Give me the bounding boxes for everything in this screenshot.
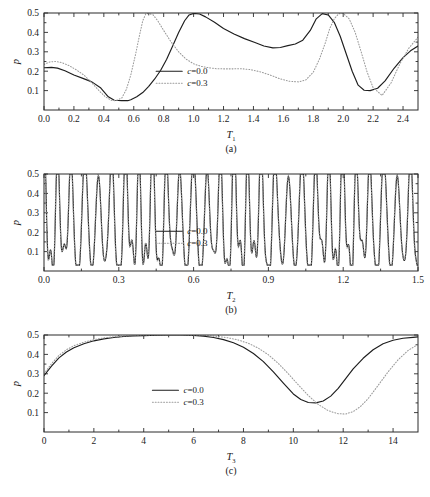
x-tick-label: 1.4 [248,114,260,124]
x-axis-label: T2 [226,290,235,303]
y-axis-label: p [10,59,21,65]
x-tick-label: 4 [141,436,146,446]
y-tick-label: 0.4 [27,350,39,360]
x-tick-label: 0.4 [98,114,110,124]
x-tick-label: 0 [42,436,47,446]
panel-b: 0.00.30.60.91.21.50.10.20.30.40.5pT2(b)c… [0,166,430,329]
x-tick-label: 2.4 [397,114,409,124]
x-tick-label: 8 [241,436,246,446]
x-tick-label: 0.3 [113,275,125,285]
y-tick-label: 0.1 [27,247,39,257]
y-tick-label: 0.1 [27,408,39,418]
y-tick-label: 0.5 [27,169,39,179]
x-tick-label: 6 [191,436,196,446]
legend-label-c-0-3: c=0.3 [187,238,208,248]
y-tick-label: 0.4 [27,28,39,38]
y-tick-label: 0.3 [27,208,39,218]
x-tick-label: 0.0 [38,275,50,285]
plot-frame [44,335,418,432]
x-tick-label: 0.9 [262,275,274,285]
legend-label-c-0-3: c=0.3 [187,78,208,88]
x-tick-label: 1.0 [188,114,200,124]
x-tick-label: 0.0 [38,114,50,124]
y-tick-label: 0.5 [27,8,39,18]
legend: c=0.0c=0.3 [152,385,204,407]
x-tick-label: 0.8 [158,114,170,124]
x-tick-label: 0.2 [68,114,80,124]
panel-c: 024681012140.10.20.30.40.5pT3(c)c=0.0c=0… [0,327,430,497]
y-tick-label: 0.5 [27,330,39,340]
y-tick-label: 0.3 [27,369,39,379]
y-axis-label: p [10,220,21,226]
y-tick-label: 0.2 [27,389,39,399]
panel-caption: (c) [225,465,236,477]
curve-c-0-0 [44,13,418,100]
panel-caption: (a) [225,143,236,155]
x-tick-label: 1.2 [218,114,230,124]
legend-label-c-0-0: c=0.0 [187,226,208,236]
x-tick-label: 2.2 [367,114,379,124]
legend-label-c-0-0: c=0.0 [183,385,204,395]
x-tick-label: 2.0 [337,114,349,124]
x-tick-label: 0.6 [128,114,140,124]
x-tick-label: 14 [388,436,398,446]
x-tick-label: 0.6 [188,275,200,285]
panel-a: 0.00.20.40.60.81.01.21.41.61.82.02.22.40… [0,0,430,168]
x-tick-label: 1.5 [412,275,424,285]
x-tick-label: 1.6 [277,114,289,124]
x-axis-label: T3 [226,451,235,464]
x-tick-label: 12 [338,436,348,446]
y-axis-label: p [10,381,21,387]
x-tick-label: 1.2 [337,275,349,285]
x-tick-label: 2 [91,436,96,446]
panel-caption: (b) [225,304,237,316]
y-tick-label: 0.2 [27,67,39,77]
x-tick-label: 1.8 [307,114,319,124]
x-tick-label: 10 [289,436,299,446]
y-tick-label: 0.1 [27,86,39,96]
legend-label-c-0-0: c=0.0 [187,66,208,76]
plot-frame [44,13,418,110]
y-tick-label: 0.4 [27,189,39,199]
curve-c-0-0 [44,335,418,403]
legend: c=0.0c=0.3 [156,66,208,88]
x-axis-label: T1 [226,129,235,142]
curve-c-0-3 [44,335,418,414]
figure-container: 0.00.20.40.60.81.01.21.41.61.82.02.22.40… [0,0,430,497]
y-tick-label: 0.2 [27,228,39,238]
y-tick-label: 0.3 [27,47,39,57]
legend-label-c-0-3: c=0.3 [183,397,204,407]
